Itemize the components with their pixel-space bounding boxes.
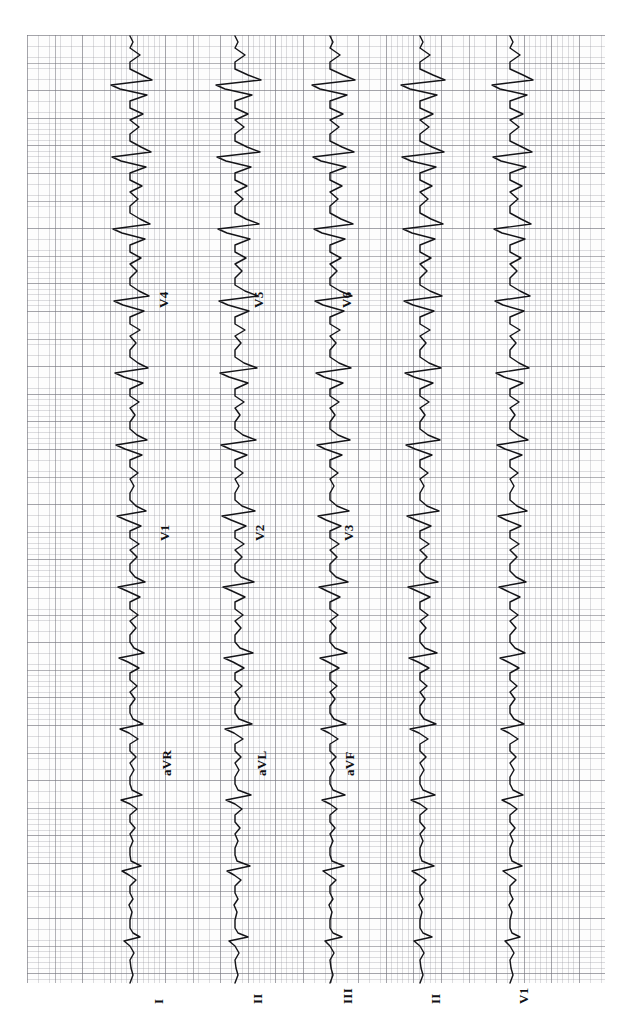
lead-label-v1: V1 [157,525,173,542]
lead-label-avf: aVF [342,751,358,776]
lead-label-i: I [151,999,167,1004]
lead-label-ii-rhythm: II [428,993,444,1004]
lead-label-avr: aVR [159,750,175,776]
lead-label-v2: V2 [252,525,268,542]
lead-label-iii: III [340,988,356,1004]
lead-label-v3: V3 [341,525,357,542]
ecg-grid-paper [27,35,605,983]
lead-label-ii: II [250,993,266,1004]
lead-label-avl: aVL [254,751,270,776]
lead-label-v4: V4 [156,292,172,309]
lead-label-v5: V5 [251,292,267,309]
lead-label-v6: V6 [339,292,355,309]
lead-label-v1-rhythm: V1 [516,988,532,1005]
